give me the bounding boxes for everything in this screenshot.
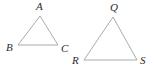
vertex-label-s: S	[140, 55, 146, 66]
vertex-label-q: Q	[110, 2, 118, 13]
two-triangles-geometry-figure: A B C Q R S	[0, 0, 154, 75]
triangle-abc-outline	[18, 16, 58, 45]
vertex-label-b: B	[6, 42, 13, 53]
vertex-label-a: A	[36, 1, 43, 12]
vertex-label-r: R	[72, 55, 79, 66]
vertex-label-c: C	[61, 43, 68, 54]
triangle-qrs-outline	[84, 17, 137, 60]
